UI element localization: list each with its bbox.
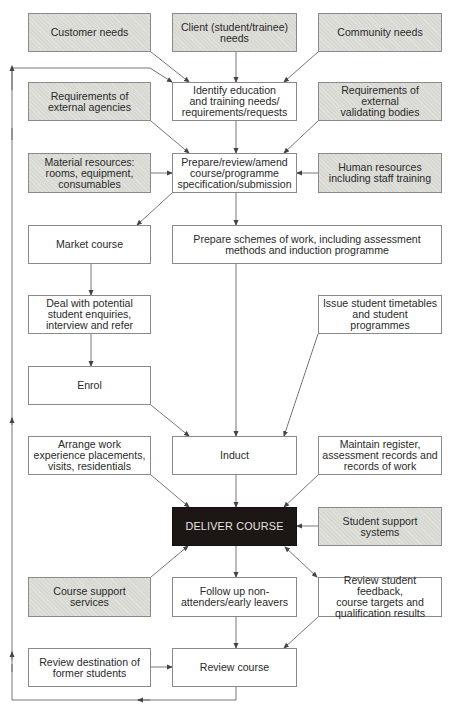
node-prepare-specification: Prepare/review/amend course/programme sp… (172, 153, 297, 193)
node-review-course: Review course (172, 648, 297, 687)
node-label: DELIVER COURSE (185, 521, 283, 532)
node-induct: Induct (172, 436, 297, 475)
node-enrol: Enrol (28, 366, 151, 405)
node-label: Market course (56, 239, 123, 250)
node-course-support-services: Course support services (28, 577, 151, 617)
node-customer-needs: Customer needs (28, 13, 151, 52)
node-market-course: Market course (28, 225, 151, 264)
node-label: Client (student/trainee) needs (181, 22, 288, 44)
node-issue-timetables: Issue student timetables and student pro… (318, 295, 442, 334)
node-student-support-systems: Student support systems (318, 507, 442, 546)
node-deliver-course: DELIVER COURSE (172, 507, 297, 546)
node-label: Community needs (337, 27, 422, 38)
node-label: Requirements of external agencies (48, 91, 131, 113)
node-review-student-feedback: Review student feedback, course targets … (318, 577, 442, 617)
node-label: Follow up non- attenders/early leavers (181, 586, 288, 608)
node-label: Identify education and training needs/ r… (182, 85, 287, 118)
node-label: Issue student timetables and student pro… (323, 298, 437, 331)
node-label: Material resources: rooms, equipment, co… (44, 157, 134, 190)
node-label: Deal with potential student enquiries, i… (46, 298, 133, 331)
node-label: Customer needs (51, 27, 129, 38)
node-community-needs: Community needs (318, 13, 442, 52)
node-label: Review course (200, 662, 269, 673)
node-deal-enquiries: Deal with potential student enquiries, i… (28, 295, 151, 334)
node-label: Course support services (53, 586, 125, 608)
node-maintain-register: Maintain register, assessment records an… (318, 436, 442, 475)
node-human-resources: Human resources including staff training (318, 153, 442, 193)
node-label: Maintain register, assessment records an… (322, 439, 437, 472)
node-material-resources: Material resources: rooms, equipment, co… (28, 153, 151, 193)
node-review-destination: Review destination of former students (28, 648, 151, 687)
node-arrange-work-experience: Arrange work experience placements, visi… (28, 436, 151, 475)
node-follow-up: Follow up non- attenders/early leavers (172, 577, 297, 617)
node-prepare-schemes: Prepare schemes of work, including asses… (172, 225, 442, 264)
node-label: Enrol (77, 380, 102, 391)
node-label: Review destination of former students (39, 657, 140, 679)
node-requirements-external-agencies: Requirements of external agencies (28, 82, 151, 121)
node-client-needs: Client (student/trainee) needs (172, 13, 297, 52)
node-label: Student support systems (322, 516, 438, 538)
node-label: Prepare/review/amend course/programme sp… (177, 157, 291, 190)
node-identify-needs: Identify education and training needs/ r… (172, 82, 297, 121)
node-label: Human resources including staff training (329, 162, 431, 184)
node-label: Requirements of external validating bodi… (322, 85, 438, 118)
node-label: Review student feedback, course targets … (322, 575, 438, 619)
node-label: Arrange work experience placements, visi… (34, 439, 146, 472)
course-delivery-flowchart: Customer needs Client (student/trainee) … (0, 0, 452, 709)
node-label: Prepare schemes of work, including asses… (193, 234, 420, 256)
node-requirements-validating-bodies: Requirements of external validating bodi… (318, 82, 442, 121)
node-label: Induct (220, 450, 249, 461)
